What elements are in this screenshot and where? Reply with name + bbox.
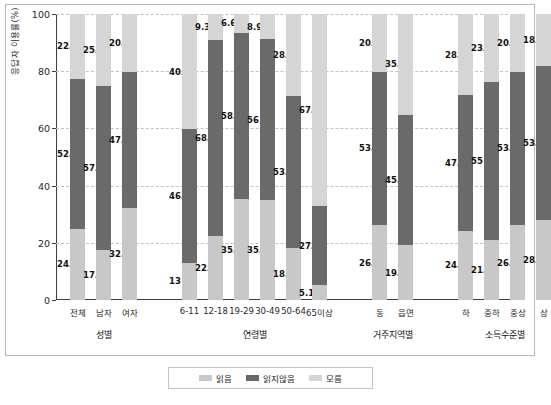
x-axis-group-label: 소득수준별 [485,328,525,341]
stacked-bar [536,14,551,300]
bar-segment [312,206,327,285]
plot-area: 020406080100 24.952.422.717.457.425.232.… [56,14,523,300]
y-axis-tick-mark [52,243,56,244]
bar-value-label: 56 [247,116,259,125]
bar-value-label: 13 [169,277,181,286]
bar-segment [372,72,387,226]
y-axis-tick-mark [52,71,56,72]
bar-segment [484,14,499,82]
bar-segment [536,66,551,220]
bar-segment [96,14,111,86]
bar-value-label: 55 [471,157,483,166]
x-axis-tick-label: 19-29 [229,306,254,316]
x-axis-tick-label: 중상 [510,306,526,318]
bar-segment [286,96,301,248]
stacked-bar [286,14,301,300]
legend-swatch-icon [309,375,322,381]
stacked-bar [312,14,327,300]
bar-segment [260,14,275,39]
bar-segment [312,285,327,300]
y-axis-tick-mark [52,128,56,129]
x-axis-tick-label: 여자 [122,306,138,318]
stacked-bar [234,14,249,300]
bar-segment [510,72,525,226]
stacked-bar [182,14,197,300]
y-axis-tick-label: 80 [38,66,50,77]
bar-segment [70,229,85,300]
x-axis-tick-label: 65이상 [306,306,333,318]
y-axis-tick-label: 20 [38,237,50,248]
bar-segment [536,220,551,300]
x-axis-tick-label: 상 [540,306,548,318]
bar-segment [398,115,413,245]
bar-segment [260,200,275,300]
y-axis-tick-label: 60 [38,123,50,134]
stacked-bar [398,14,413,300]
bar-segment [70,79,85,229]
legend-label: 읽지않음 [263,372,295,384]
y-axis-title: 응답자 이용률(%) [8,0,24,116]
y-axis-tick-mark [52,14,56,15]
x-axis-group-label: 성별 [96,328,112,341]
x-axis-tick-label: 30-49 [255,306,280,316]
y-axis-tick-mark [52,300,56,301]
bar-segment [122,208,137,300]
bar-segment [458,14,473,95]
x-axis-tick-label: 50-64 [281,306,306,316]
stacked-bar [70,14,85,300]
x-axis-tick-label: 동 [376,306,384,318]
chart-legend: 읽음읽지않음모름 [168,367,373,389]
bar-segment [208,40,223,236]
x-axis-group-label: 연령별 [243,328,267,341]
legend-item[interactable]: 읽음 [199,372,232,384]
x-axis-tick-label: 중하 [484,306,500,318]
bar-segment [398,14,413,115]
legend-item[interactable]: 읽지않음 [246,372,295,384]
bar-segment [182,129,197,263]
bar-segment [398,245,413,300]
bar-segment [484,82,499,239]
bar-segment [484,240,499,300]
x-axis-tick-label: 하 [462,306,470,318]
x-axis-tick-label: 전체 [70,306,86,318]
bar-segment [312,14,327,206]
y-axis-tick-mark [52,186,56,187]
bar-segment [122,14,137,72]
x-axis-tick-label: 남자 [96,306,112,318]
stacked-bar [208,14,223,300]
bar-segment [122,72,137,208]
x-axis-tick-label: 12-18 [203,306,228,316]
stacked-bar [372,14,387,300]
legend-item[interactable]: 모름 [309,372,342,384]
legend-swatch-icon [246,375,259,381]
y-axis-tick-label: 100 [32,9,50,20]
bar-segment [536,14,551,66]
x-axis-group-label: 거주지역별 [373,328,413,341]
stacked-bar [122,14,137,300]
legend-label: 읽음 [216,372,232,384]
y-axis-tick-label: 0 [44,295,50,306]
bar-segment [96,86,111,250]
legend-swatch-icon [199,375,212,381]
bar-segment [286,14,301,96]
y-axis-tick-label: 40 [38,180,50,191]
bar-segment [372,225,387,300]
x-axis-tick-label: 6-11 [180,306,199,316]
x-axis-tick-label: 읍면 [398,306,414,318]
legend-label: 모름 [326,372,342,384]
